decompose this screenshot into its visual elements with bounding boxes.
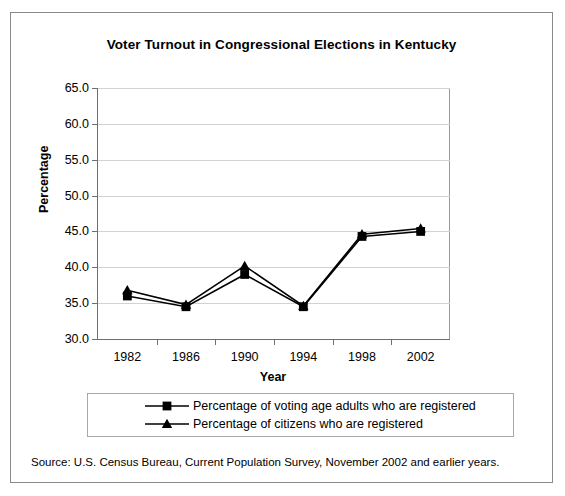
series-line (127, 229, 420, 306)
series-1 (122, 223, 426, 310)
y-axis-tick-label: 65.0 (65, 82, 89, 95)
y-axis-tick-label: 50.0 (65, 189, 89, 202)
data-point-square-icon (240, 270, 249, 279)
legend-item-0: Percentage of voting age adults who are … (145, 397, 476, 415)
x-axis-tick-label: 2002 (407, 350, 435, 364)
data-point-triangle-icon (122, 285, 132, 294)
y-axis-tick (92, 339, 98, 340)
x-axis-tick (215, 339, 216, 345)
series-plot (98, 88, 450, 339)
legend-marker-square-icon (145, 399, 189, 413)
y-axis-tick-label: 35.0 (65, 297, 89, 310)
x-axis-tick-label: 1986 (172, 350, 200, 364)
data-point-triangle-icon (239, 261, 249, 270)
plot-area: 30.035.040.045.050.055.060.065.0 1982198… (97, 88, 450, 340)
x-axis-tick (333, 339, 334, 345)
legend-label-1: Percentage of citizens who are registere… (193, 417, 423, 431)
x-axis-title: Year (97, 370, 449, 384)
legend-marker-triangle-icon (145, 417, 189, 431)
chart-figure: Voter Turnout in Congressional Elections… (10, 12, 553, 483)
y-axis-tick-label: 60.0 (65, 118, 89, 131)
legend-item-1: Percentage of citizens who are registere… (145, 415, 423, 433)
series-line (127, 231, 420, 306)
x-axis-tick-label: 1994 (289, 350, 317, 364)
x-axis-tick-label: 1990 (231, 350, 259, 364)
chart-title: Voter Turnout in Congressional Elections… (11, 37, 552, 52)
data-point-square-icon (163, 402, 172, 411)
series-0 (123, 227, 425, 311)
x-axis-tick (274, 339, 275, 345)
x-axis-tick-label: 1998 (348, 350, 376, 364)
x-axis-tick (391, 339, 392, 345)
y-axis-tick-label: 40.0 (65, 261, 89, 274)
source-note: Source: U.S. Census Bureau, Current Popu… (31, 456, 499, 468)
y-axis-tick-label: 45.0 (65, 225, 89, 238)
y-axis-tick-label: 30.0 (65, 333, 89, 346)
y-axis-title: Percentage (37, 146, 51, 213)
x-axis-tick (157, 339, 158, 345)
chart-legend: Percentage of voting age adults who are … (87, 393, 514, 437)
y-axis-tick-label: 55.0 (65, 153, 89, 166)
legend-label-0: Percentage of voting age adults who are … (193, 399, 476, 413)
x-axis-tick-label: 1982 (113, 350, 141, 364)
